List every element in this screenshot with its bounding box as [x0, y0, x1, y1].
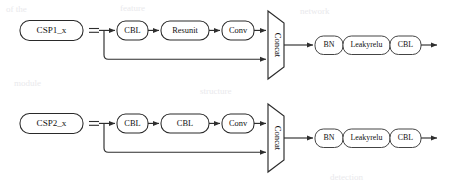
csp1-concat-label: Concat [273, 33, 283, 58]
csp1-input-label: CSP1_x [37, 25, 67, 35]
diagram-svg: CSP1_x CBL Resunit Conv [0, 0, 452, 189]
csp2-equals-sign [89, 122, 99, 126]
csp2-node-cbl-out-label: CBL [398, 133, 414, 142]
csp2-node-leakyrelu-label: Leakyrelu [351, 133, 383, 142]
csp2-node-cbl-1-label: CBL [124, 119, 140, 128]
csp2-node-bn-label: BN [324, 133, 335, 142]
csp2-concat-label: Concat [273, 126, 283, 151]
figure-canvas: of the feature network module structure … [0, 0, 452, 189]
csp1-node-bn-label: BN [324, 40, 335, 49]
row-csp1: CSP1_x CBL Resunit Conv [20, 11, 437, 79]
csp1-node-cbl-label: CBL [124, 26, 140, 35]
csp1-node-cbl-out-label: CBL [398, 40, 414, 49]
csp2-node-conv-label: Conv [229, 119, 248, 128]
csp2-input-label: CSP2_x [37, 118, 67, 128]
csp1-equals-sign [89, 29, 99, 33]
csp1-node-conv-label: Conv [229, 26, 248, 35]
row-csp2: CSP2_x CBL CBL Conv Concat [20, 104, 437, 172]
csp1-node-leakyrelu-label: Leakyrelu [351, 40, 383, 49]
csp2-node-cbl-2-label: CBL [177, 119, 193, 128]
csp1-node-resunit-label: Resunit [172, 26, 198, 35]
